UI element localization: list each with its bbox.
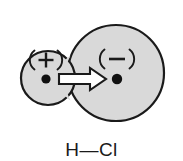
dipole-figure: H—Cl <box>0 0 183 161</box>
hydrogen-nucleus-dot <box>41 74 50 83</box>
chlorine-nucleus-dot <box>112 74 122 84</box>
molecule-formula-label: H—Cl <box>0 139 183 161</box>
molecule-diagram <box>0 0 183 161</box>
